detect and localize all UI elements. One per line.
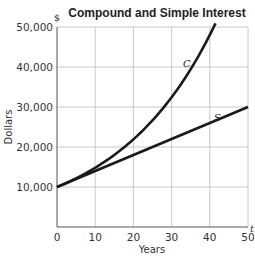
y-tick-label: 50,000 bbox=[16, 21, 53, 33]
curve-label-S: S bbox=[214, 112, 221, 123]
axes bbox=[57, 27, 248, 227]
x-axis-label: Years bbox=[138, 244, 165, 255]
series-line-C bbox=[57, 23, 216, 187]
y-tick-label: 20,000 bbox=[16, 141, 53, 153]
x-tick-label: 30 bbox=[165, 231, 178, 243]
x-tick-label: 40 bbox=[203, 231, 216, 243]
y-tick-labels: 10,00020,00030,00040,00050,000 bbox=[16, 21, 53, 193]
grid-lines bbox=[57, 27, 248, 227]
y-tick-label: 40,000 bbox=[16, 61, 53, 73]
x-tick-label: 0 bbox=[54, 231, 61, 243]
chart-title: Compound and Simple Interest bbox=[68, 6, 245, 20]
x-tick-label: 20 bbox=[127, 231, 140, 243]
y-unit-label: $ bbox=[54, 12, 60, 23]
y-tick-label: 30,000 bbox=[16, 101, 53, 113]
compound-simple-interest-chart: Compound and Simple Interest 10,00020,00… bbox=[0, 0, 255, 257]
data-series bbox=[57, 23, 248, 187]
x-tick-label: 10 bbox=[89, 231, 102, 243]
y-tick-label: 10,000 bbox=[16, 181, 53, 193]
curve-labels: CS bbox=[183, 58, 221, 123]
y-axis-label: Dollars bbox=[3, 110, 14, 145]
curve-label-C: C bbox=[183, 58, 191, 69]
x-tick-labels: 01020304050 bbox=[54, 231, 255, 243]
